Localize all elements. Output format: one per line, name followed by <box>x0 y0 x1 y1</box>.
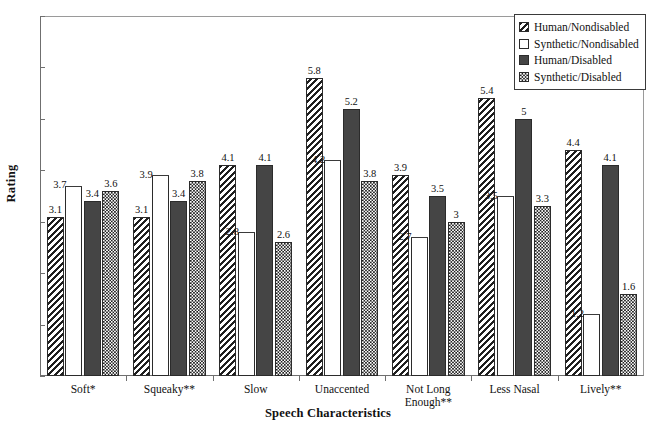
bar-checkerboard <box>102 191 119 376</box>
legend-item-label: Synthetic/Disabled <box>534 71 622 83</box>
x-axis-category-label: Less Nasal <box>489 383 539 396</box>
bar-solid-dark <box>515 119 532 376</box>
legend-item: Synthetic/Disabled <box>519 69 639 86</box>
bar-value-label: 3.1 <box>49 204 62 215</box>
bar-open-white <box>411 237 428 376</box>
bar-solid-dark <box>343 109 360 376</box>
bar-chart-figure: 01234567 Rating 3.13.73.43.63.13.93.43.8… <box>0 0 656 431</box>
bar-value-label: 1.6 <box>622 281 635 292</box>
checkerboard-swatch <box>519 72 529 82</box>
x-axis-category-label: Soft* <box>71 383 96 396</box>
bar-value-label: 5.2 <box>345 96 358 107</box>
bar-group: 4.12.84.12.6 <box>213 16 299 376</box>
x-axis-tick-mark <box>558 376 559 381</box>
bar-solid-dark <box>602 165 619 376</box>
legend-item-label: Synthetic/Nondisabled <box>534 38 639 50</box>
bar-value-label: 3.1 <box>135 204 148 215</box>
bar-value-label: 3.8 <box>191 168 204 179</box>
bar-solid-dark <box>256 165 273 376</box>
bar-value-label: 3.4 <box>86 189 99 200</box>
legend-item-label: Human/Nondisabled <box>534 21 629 33</box>
x-axis-category-label: Lively** <box>580 383 622 396</box>
bar-diagonal-hatch <box>565 150 582 376</box>
bar-diagonal-hatch <box>133 217 150 376</box>
bar-value-label: 3.8 <box>363 168 376 179</box>
bar-value-label: 2.6 <box>277 230 290 241</box>
bar-open-white <box>324 160 341 376</box>
y-axis-title: Rating <box>4 149 19 219</box>
value-leader-line <box>497 196 514 197</box>
bar-group: 3.13.93.43.8 <box>126 16 212 376</box>
bar-diagonal-hatch <box>306 78 323 376</box>
open-white-swatch <box>519 39 529 49</box>
x-axis-category-label: Not Long Enough** <box>405 383 452 408</box>
bar-group: 3.92.73.53 <box>385 16 471 376</box>
x-axis-category-label: Unaccented <box>315 383 369 396</box>
bar-group: 5.84.25.23.8 <box>299 16 385 376</box>
bar-solid-dark <box>170 201 187 376</box>
bar-checkerboard <box>534 206 551 376</box>
bar-value-label: 4.4 <box>567 137 580 148</box>
bar-value-label: 5.8 <box>308 65 321 76</box>
x-axis-tick-mark <box>126 376 127 381</box>
x-axis-tick-mark <box>213 376 214 381</box>
x-axis-tick-mark <box>471 376 472 381</box>
x-axis-category-label: Squeaky** <box>144 383 195 396</box>
value-leader-line <box>152 175 169 176</box>
bar-solid-dark <box>429 196 446 376</box>
legend-item-label: Human/Disabled <box>534 54 612 66</box>
bar-checkerboard <box>189 181 206 376</box>
bar-value-label: 4.1 <box>258 153 271 164</box>
x-axis: Soft*Squeaky**SlowUnaccentedNot Long Eno… <box>40 376 644 431</box>
bar-value-label: 3.6 <box>104 178 117 189</box>
bar-value-label: 3.3 <box>536 194 549 205</box>
bar-diagonal-hatch <box>47 217 64 376</box>
bar-checkerboard <box>361 181 378 376</box>
bar-value-label: 3.5 <box>431 184 444 195</box>
bar-value-label: 5 <box>521 106 526 117</box>
bar-solid-dark <box>84 201 101 376</box>
bar-diagonal-hatch <box>392 175 409 376</box>
value-leader-line <box>324 160 341 161</box>
legend-item: Human/Disabled <box>519 52 639 69</box>
value-leader-line <box>583 314 600 315</box>
value-leader-line <box>238 232 255 233</box>
legend-item: Synthetic/Nondisabled <box>519 36 639 53</box>
diagonal-hatch-swatch <box>519 22 529 32</box>
bar-checkerboard <box>448 222 465 376</box>
bar-value-label: 4.1 <box>604 153 617 164</box>
bar-value-label: 4.1 <box>221 153 234 164</box>
bar-value-label: 3 <box>453 209 458 220</box>
x-axis-tick-mark <box>385 376 386 381</box>
legend-item: Human/Nondisabled <box>519 19 639 36</box>
bar-diagonal-hatch <box>219 165 236 376</box>
bar-value-label: 3.4 <box>172 189 185 200</box>
x-axis-tick-mark <box>299 376 300 381</box>
bar-diagonal-hatch <box>478 98 495 376</box>
chart-legend: Human/NondisabledSynthetic/NondisabledHu… <box>514 14 646 90</box>
bar-value-label: 5.4 <box>480 86 493 97</box>
value-leader-line <box>65 186 82 187</box>
x-axis-title: Speech Characteristics <box>0 406 656 421</box>
bar-value-label: 3.9 <box>394 163 407 174</box>
value-leader-line <box>411 237 428 238</box>
bar-checkerboard <box>275 242 292 376</box>
bar-open-white <box>583 314 600 376</box>
bar-open-white <box>152 175 169 376</box>
bar-open-white <box>497 196 514 376</box>
x-axis-category-label: Slow <box>244 383 268 396</box>
bar-open-white <box>238 232 255 376</box>
bar-group: 3.13.73.43.6 <box>40 16 126 376</box>
bar-checkerboard <box>620 294 637 376</box>
solid-dark-swatch <box>519 55 529 65</box>
bar-open-white <box>65 186 82 376</box>
